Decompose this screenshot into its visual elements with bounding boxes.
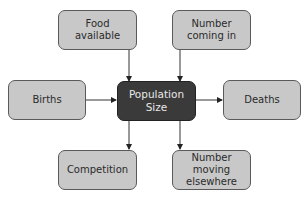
center-label-line: Size (146, 101, 168, 113)
node-deaths: Deaths (223, 80, 301, 120)
node-label-line: Number (191, 152, 231, 163)
node-label-line: Number (191, 18, 231, 29)
node-number-coming-in: Numbercoming in (172, 10, 251, 50)
center-label-line: Population (129, 88, 184, 100)
node-label-line: elsewhere (186, 176, 237, 187)
node-population-size: PopulationSize (117, 81, 196, 121)
node-number-moving-elsewhere: Numbermovingelsewhere (172, 150, 251, 190)
node-label-line: Deaths (244, 94, 279, 106)
node-births: Births (8, 80, 86, 120)
node-label-line: Births (32, 94, 61, 106)
node-competition: Competition (58, 150, 137, 190)
node-label-line: Food (86, 18, 110, 29)
node-label-line: moving (193, 164, 230, 175)
node-label-line: available (75, 30, 120, 41)
node-food-available: Foodavailable (58, 10, 137, 50)
node-label-line: coming in (187, 30, 236, 41)
node-label-line: Competition (67, 164, 128, 176)
